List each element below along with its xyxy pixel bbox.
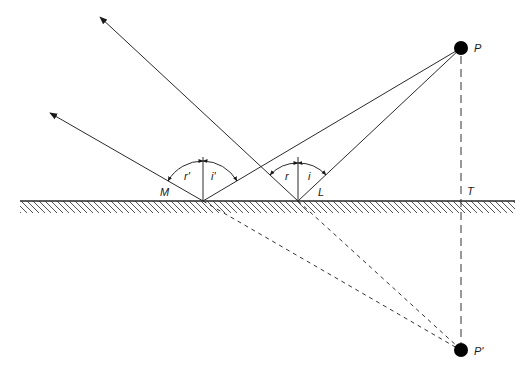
- label-i: i: [308, 170, 311, 182]
- virtual-ray-M: [203, 201, 457, 348]
- label-r: r: [285, 170, 290, 182]
- surface-hatching: [20, 201, 515, 213]
- virtual-ray-L: [298, 201, 458, 347]
- mirror-surface: [20, 201, 515, 213]
- label-i-prime: i': [211, 170, 216, 182]
- incident-ray-M: [203, 48, 461, 201]
- label-M: M: [160, 186, 170, 198]
- point-P-prime: [454, 343, 468, 357]
- incident-ray-L: [298, 48, 461, 201]
- label-T: T: [467, 185, 475, 197]
- reflected-ray-M: [50, 113, 203, 201]
- label-L: L: [318, 186, 324, 198]
- reflected-ray-L: [100, 17, 298, 201]
- angle-i-arc: [298, 163, 326, 175]
- label-P-prime: P': [474, 345, 484, 357]
- label-r-prime: r': [184, 170, 191, 182]
- angle-i-prime-arc: [203, 161, 237, 181]
- point-P: [454, 41, 468, 55]
- label-P: P: [474, 42, 482, 54]
- reflection-diagram: P P' T L M r i r' i': [0, 0, 531, 375]
- angle-r-arc: [270, 163, 298, 175]
